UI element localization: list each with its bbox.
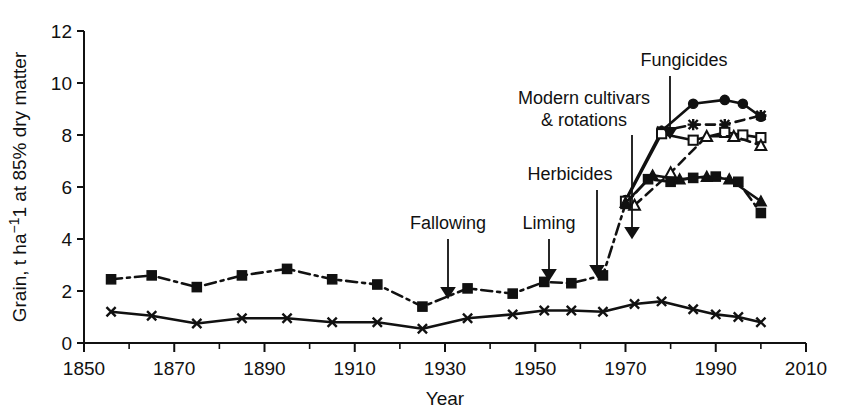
x-tick-label: 2010 (785, 358, 827, 379)
marker-filled-square (237, 271, 246, 280)
marker-filled-square (418, 302, 427, 311)
axis-labels: YearGrain, t ha−11 at 85% dry matter (6, 51, 465, 409)
marker-open-triangle (701, 131, 712, 141)
annotations: FallowingLimingHerbicidesModern cultivar… (410, 50, 728, 292)
annotation-label: Fallowing (410, 213, 486, 233)
series-path (111, 177, 761, 307)
chart-canvas: 0246810121850187018901910193019501970199… (0, 0, 859, 413)
annotation-label: Liming (522, 213, 575, 233)
x-tick-label: 1910 (334, 358, 376, 379)
annotation-label: Herbicides (527, 164, 612, 184)
x-tick-label: 1970 (604, 358, 646, 379)
marker-filled-square (598, 271, 607, 280)
y-tick-label: 4 (61, 229, 72, 250)
series-path (111, 301, 761, 328)
y-tick-label: 12 (51, 21, 72, 42)
grain-yield-chart: 0246810121850187018901910193019501970199… (0, 0, 859, 413)
x-axis-title: Year (426, 388, 465, 409)
marker-filled-square (756, 208, 765, 217)
y-tick-label: 6 (61, 177, 72, 198)
y-tick-label: 10 (51, 73, 72, 94)
marker-filled-square (147, 271, 156, 280)
y-tick-label: 8 (61, 125, 72, 146)
marker-filled-square (373, 280, 382, 289)
marker-filled-square (192, 283, 201, 292)
marker-filled-square (282, 264, 291, 273)
marker-filled-circle (720, 95, 729, 104)
y-tick-label: 0 (61, 333, 72, 354)
x-tick-label: 1850 (63, 358, 105, 379)
x-tick-label: 1930 (424, 358, 466, 379)
y-axis-title: Grain, t ha−11 at 85% dry matter (6, 51, 30, 322)
marker-filled-circle (738, 99, 747, 108)
marker-filled-square (328, 275, 337, 284)
x-tick-label: 1890 (243, 358, 285, 379)
marker-filled-circle (689, 99, 698, 108)
marker-asterisk (755, 110, 766, 121)
marker-filled-square (567, 279, 576, 288)
marker-filled-square (463, 284, 472, 293)
marker-filled-square (106, 275, 115, 284)
annotation-label: Fungicides (640, 50, 727, 70)
annotation-label: & rotations (541, 110, 627, 130)
x-tick-label: 1990 (695, 358, 737, 379)
marker-open-square (689, 136, 698, 145)
y-tick-label: 2 (61, 281, 72, 302)
x-tick-label: 1950 (514, 358, 556, 379)
marker-filled-square (540, 277, 549, 286)
marker-asterisk (688, 119, 699, 130)
series-fym-treatment (106, 172, 765, 311)
marker-open-square (657, 129, 666, 138)
annotation-label: Modern cultivars (518, 88, 650, 108)
x-tick-label: 1870 (153, 358, 195, 379)
marker-filled-square (508, 289, 517, 298)
